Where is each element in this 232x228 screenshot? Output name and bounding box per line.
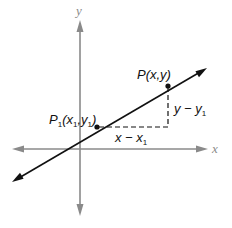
line-lower-arrow-icon: [12, 173, 24, 182]
line-through-points: [12, 68, 207, 182]
slope-diagram: x y P1(x1,y1) P(x,y) x − x1 y − y1: [0, 0, 232, 228]
y-axis-label: y: [74, 3, 82, 18]
y-axis-up-arrow-icon: [77, 20, 84, 32]
point-p: [165, 83, 170, 88]
line-upper-arrow-icon: [195, 68, 207, 77]
x-axis-left-arrow-icon: [12, 146, 24, 153]
horizontal-leg-label: x − x1: [114, 130, 148, 147]
vertical-leg-label: y − y1: [173, 101, 207, 118]
right-triangle-legs: [99, 88, 168, 127]
x-axis-label: x: [211, 141, 218, 156]
p-label: P(x,y): [137, 67, 171, 82]
y-axis: y: [74, 3, 84, 216]
p1-label: P1(x1,y1): [49, 112, 96, 129]
x-axis-right-arrow-icon: [196, 146, 208, 153]
y-axis-down-arrow-icon: [77, 204, 84, 216]
